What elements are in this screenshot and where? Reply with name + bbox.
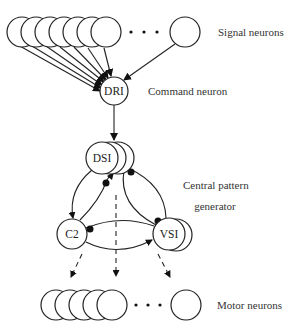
c2-to-motor-dashed-arrow [71,254,82,277]
signal-to-dri-arrows [18,44,175,91]
motor-neuron-last [171,290,201,320]
motor-ellipsis [134,303,161,306]
cpg-label-line2: generator [194,200,236,212]
signal-ellipsis [129,30,158,33]
motor-neurons-label: Motor neurons [217,299,282,311]
neural-circuit-diagram: Signal neurons DRI Command neuron DSI C2 [0,0,298,331]
signal-neurons-label: Signal neurons [218,26,284,38]
c2-label: C2 [65,228,79,240]
signal-neuron-stack [7,17,121,47]
dri-label: DRI [104,85,124,97]
vsi-label: VSI [160,228,179,240]
dsi-label: DSI [93,152,112,164]
signal-neuron-last [170,17,200,47]
command-neuron-label: Command neuron [148,85,228,97]
vsi-to-motor-dashed-arrow [158,254,170,277]
motor-neuron-stack [41,290,127,320]
cpg-label-line1: Central pattern [183,179,249,191]
